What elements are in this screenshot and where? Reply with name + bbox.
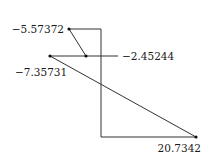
node-c[interactable]: [48, 54, 51, 57]
node-d-label: 20.7342: [158, 142, 201, 154]
node-d[interactable]: [194, 135, 197, 138]
edge-c-d: [50, 56, 196, 137]
edge-a-b: [69, 29, 86, 56]
node-a-label: −5.57372: [12, 23, 64, 35]
edge-a-d-orthogonal: [69, 29, 196, 137]
node-b[interactable]: [84, 54, 87, 57]
diagram-canvas: −5.57372 −2.45244 −7.35731 20.7342: [0, 0, 216, 159]
node-c-label: −7.35731: [15, 66, 67, 78]
node-a[interactable]: [67, 27, 70, 30]
node-b-label: −2.45244: [122, 50, 175, 62]
